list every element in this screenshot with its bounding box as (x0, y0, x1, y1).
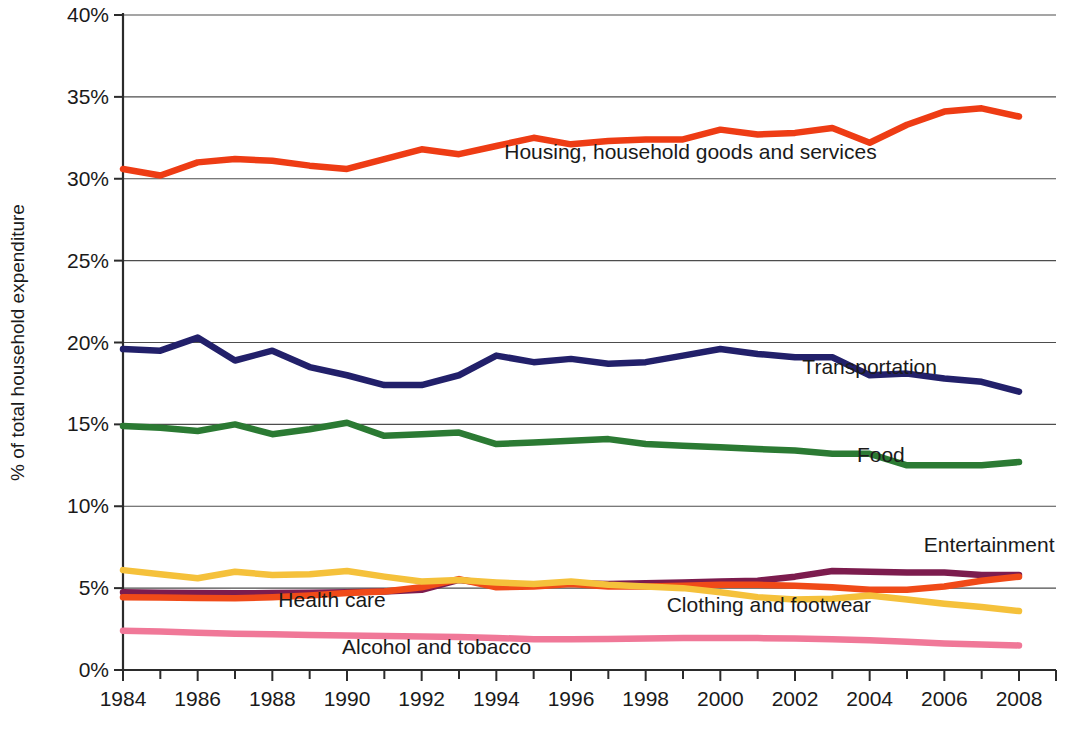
x-tick-label-2004: 2004 (846, 687, 893, 710)
x-tick-label-2000: 2000 (697, 687, 744, 710)
x-tick-label-1992: 1992 (398, 687, 445, 710)
x-tick-label-2008: 2008 (996, 687, 1043, 710)
y-tick-labels-group: 0%5%10%15%20%25%30%35%40% (67, 3, 109, 681)
y-tick-label-0%: 0% (79, 658, 109, 681)
x-tick-label-1990: 1990 (324, 687, 371, 710)
x-tick-label-1998: 1998 (622, 687, 669, 710)
series-label-food: Food (857, 443, 905, 466)
expenditure-line-chart: 0%5%10%15%20%25%30%35%40% 19841986198819… (0, 0, 1074, 732)
y-tick-label-30%: 30% (67, 167, 109, 190)
x-tick-label-1988: 1988 (249, 687, 296, 710)
x-tick-label-1986: 1986 (174, 687, 221, 710)
x-tick-labels-group: 1984198619881990199219941996199820002002… (100, 687, 1043, 710)
series-label-entertainment: Entertainment (924, 533, 1055, 556)
series-label-health-care: Health care (278, 588, 385, 611)
y-axis-title-group: % of total household expenditure (7, 204, 28, 481)
y-tick-label-35%: 35% (67, 85, 109, 108)
x-tick-label-1994: 1994 (473, 687, 520, 710)
series-label-clothing-and-footwear: Clothing and footwear (667, 593, 871, 616)
y-tick-label-40%: 40% (67, 3, 109, 26)
chart-svg: 0%5%10%15%20%25%30%35%40% 19841986198819… (0, 0, 1074, 732)
y-axis-title: % of total household expenditure (7, 204, 28, 481)
series-label-alcohol-and-tobacco: Alcohol and tobacco (342, 635, 531, 658)
y-tick-label-15%: 15% (67, 412, 109, 435)
y-tick-label-20%: 20% (67, 331, 109, 354)
series-line-alcohol-and-tobacco (123, 631, 1019, 646)
y-tick-label-25%: 25% (67, 249, 109, 272)
x-tick-label-1984: 1984 (100, 687, 147, 710)
x-tick-label-2002: 2002 (772, 687, 819, 710)
x-tick-label-1996: 1996 (548, 687, 595, 710)
y-tick-label-5%: 5% (79, 576, 109, 599)
y-tick-label-10%: 10% (67, 494, 109, 517)
series-label-housing-household-goods-and-services: Housing, household goods and services (504, 140, 876, 163)
x-tick-label-2006: 2006 (921, 687, 968, 710)
series-label-transportation: Transportation (802, 355, 937, 378)
